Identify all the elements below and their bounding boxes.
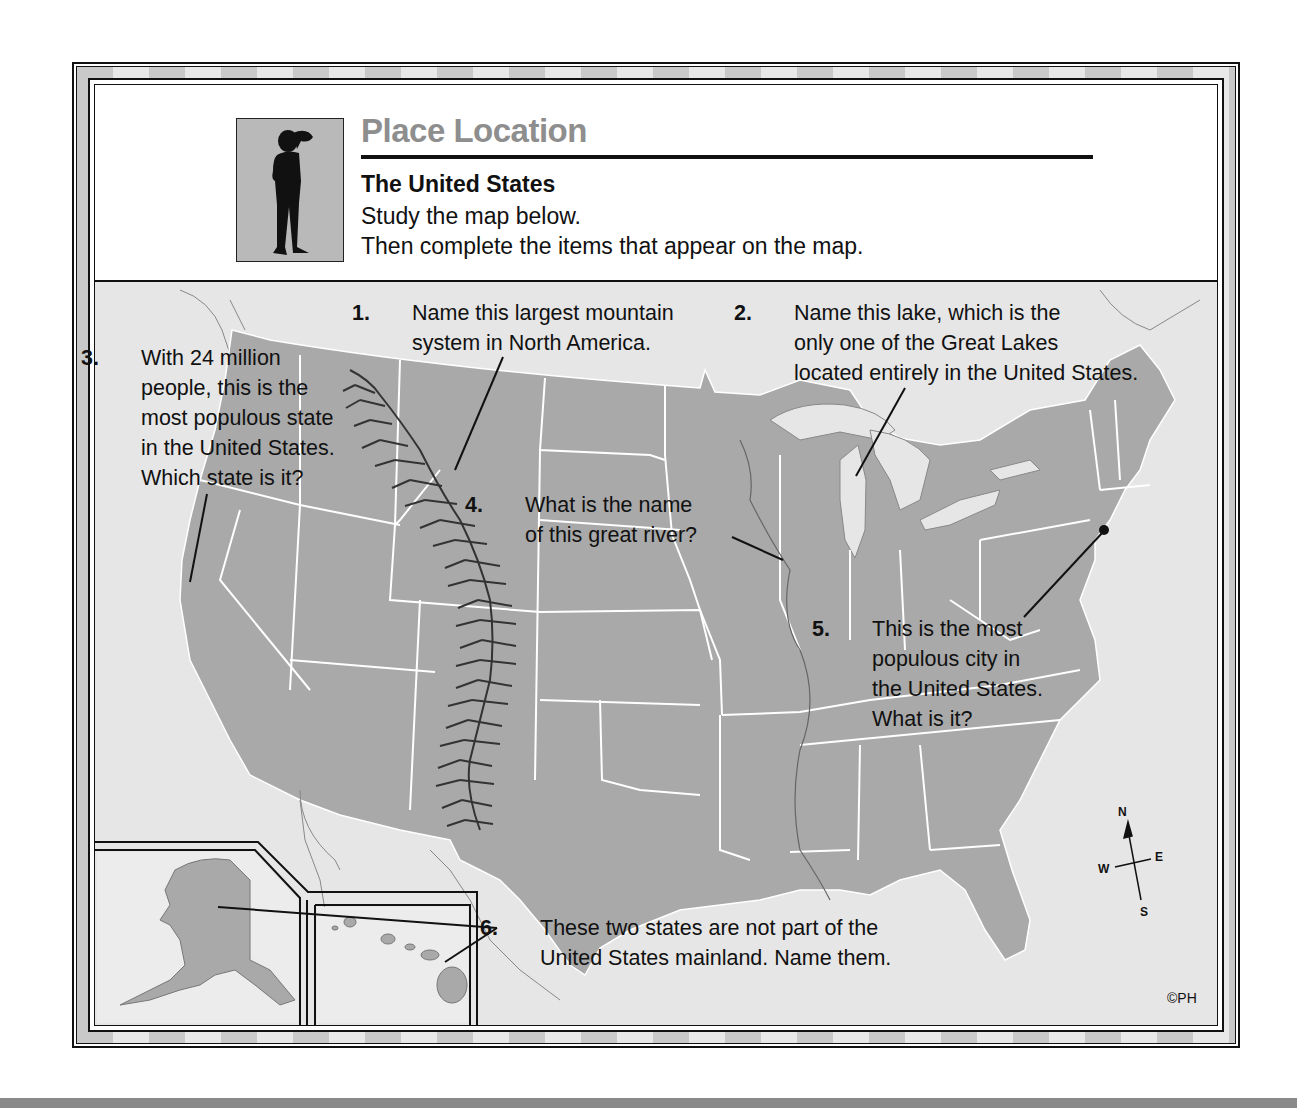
bottom-strip — [0, 1098, 1297, 1108]
page-title: Place Location — [361, 112, 587, 150]
question-6: 6.These two states are not part of the U… — [510, 913, 891, 973]
question-4: 4.What is the name of this great river? — [495, 490, 697, 550]
question-1: 1.Name this largest mountain system in N… — [382, 298, 674, 358]
question-2: 2.Name this lake, which is the only one … — [764, 298, 1138, 388]
instruction-line-1: Study the map below. — [361, 203, 581, 230]
question-3: 3.With 24 million people, this is the mo… — [111, 343, 335, 493]
compass-north-label: N — [1118, 805, 1127, 819]
copyright-label: ©PH — [1167, 990, 1197, 1006]
new-york-city-marker — [1099, 525, 1109, 535]
compass-east-label: E — [1155, 850, 1163, 864]
map-subtitle: The United States — [361, 171, 555, 198]
person-looking-icon — [236, 118, 344, 262]
question-5: 5.This is the most populous city in the … — [842, 614, 1043, 734]
compass-south-label: S — [1140, 905, 1148, 919]
compass-west-label: W — [1098, 862, 1109, 876]
title-divider — [361, 155, 1093, 159]
instruction-line-2: Then complete the items that appear on t… — [361, 233, 863, 260]
